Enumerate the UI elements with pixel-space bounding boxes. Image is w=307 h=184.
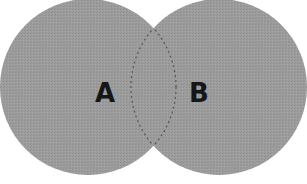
set-a-label: A: [95, 78, 115, 108]
set-b-circle: [131, 0, 307, 175]
set-b-label: B: [189, 78, 209, 108]
venn-diagram: A B: [0, 0, 307, 184]
